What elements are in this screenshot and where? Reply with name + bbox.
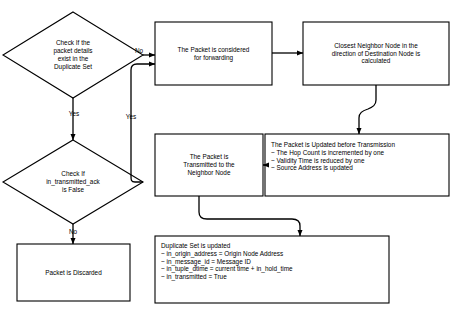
edge-label-duplicate-yes: Yes	[63, 110, 85, 117]
node-closest-neighbor	[303, 22, 449, 85]
edge-neighbor-to-updated	[359, 85, 376, 134]
node-packet-discarded	[17, 244, 130, 301]
edge-ack-yes	[131, 64, 155, 182]
flowchart-graphics	[0, 0, 459, 324]
node-check-duplicate-set	[3, 12, 143, 98]
node-packet-updated	[265, 134, 449, 196]
edge-transmitted-to-duplicate-set	[199, 196, 300, 236]
node-packet-transmitted	[155, 134, 263, 196]
edge-label-ack-yes: Yes	[120, 113, 142, 120]
node-packet-considered	[155, 22, 272, 85]
flowchart-canvas: Check If the packet details exist in the…	[0, 0, 459, 324]
edge-label-ack-no: No	[63, 228, 83, 235]
node-duplicate-set-updated	[155, 236, 389, 303]
node-check-transmitted-ack	[3, 140, 143, 224]
edge-label-duplicate-no: No	[129, 47, 149, 54]
